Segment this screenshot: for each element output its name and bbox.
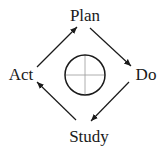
arrow-do-to-study bbox=[91, 82, 129, 121]
node-act: Act bbox=[9, 65, 34, 84]
node-do: Do bbox=[136, 65, 157, 84]
node-plan: Plan bbox=[70, 6, 101, 25]
arrow-plan-to-do bbox=[90, 28, 131, 66]
pdsa-cycle-diagram: Plan Do Study Act bbox=[0, 0, 159, 153]
node-study: Study bbox=[69, 127, 109, 146]
center-crosshair-circle-icon bbox=[65, 55, 105, 95]
